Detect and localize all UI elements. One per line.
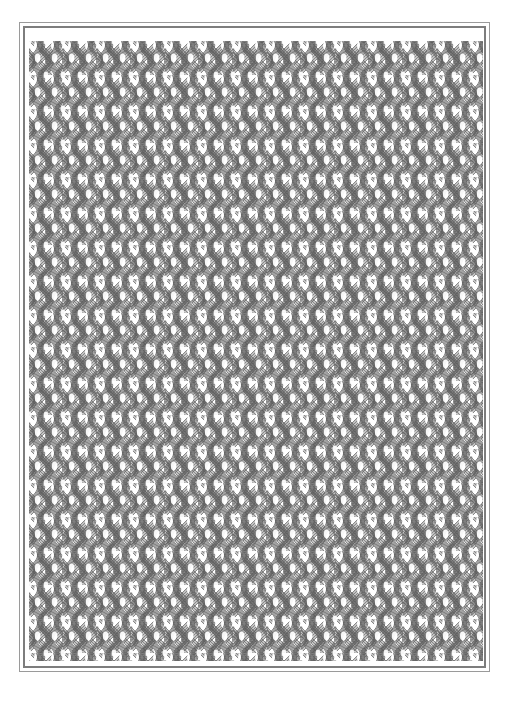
ornament-plate: [0, 0, 512, 704]
frame-inner-rule: [23, 26, 486, 668]
